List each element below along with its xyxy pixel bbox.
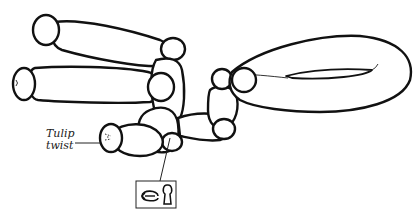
- tulip-twist-label: Tulip twist: [46, 128, 72, 152]
- loop-balloon: [230, 36, 411, 112]
- icon-box: [136, 181, 176, 208]
- tulip-twist-balloon: [100, 124, 163, 156]
- keyhole-lock-icon: [163, 185, 171, 204]
- balloon-diagram: [0, 0, 419, 211]
- middle-long-balloon: [13, 67, 162, 103]
- tulip-label-line2: twist: [46, 140, 72, 152]
